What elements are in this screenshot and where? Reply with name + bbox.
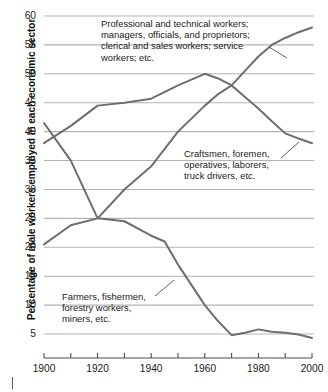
y-tick-label-10: 10 (12, 300, 36, 310)
chart-container: Percentage of male workers employed in e… (0, 0, 328, 392)
leader-professional (269, 47, 287, 58)
y-tick-label-50: 50 (12, 69, 36, 79)
axis-ticks-group (44, 353, 312, 358)
x-tick-label-1920: 1920 (78, 363, 118, 374)
annotation-professional-sector: Professional and technical workers; mana… (101, 18, 269, 63)
x-tick-label-1900: 1900 (24, 363, 64, 374)
y-tick-label-35: 35 (12, 156, 36, 166)
x-tick-label-1980: 1980 (238, 363, 278, 374)
y-tick-label-45: 45 (12, 98, 36, 108)
annotation-craftsmen-sector: Craftsmen, foremen, operatives, laborers… (184, 148, 304, 182)
y-tick-label-30: 30 (12, 185, 36, 195)
page-corner-mark (12, 377, 13, 389)
y-tick-label-25: 25 (12, 213, 36, 223)
x-tick-label-2000: 2000 (292, 363, 328, 374)
y-tick-label-5: 5 (12, 329, 36, 339)
y-tick-label-60: 60 (12, 11, 36, 21)
y-tick-label-15: 15 (12, 271, 36, 281)
annotation-farmers-sector: Farmers, fishermen, forestry workers, mi… (62, 291, 182, 325)
y-tick-label-55: 55 (12, 40, 36, 50)
x-tick-label-1960: 1960 (185, 363, 225, 374)
x-tick-label-1940: 1940 (131, 363, 171, 374)
y-tick-label-40: 40 (12, 127, 36, 137)
y-tick-label-20: 20 (12, 242, 36, 252)
